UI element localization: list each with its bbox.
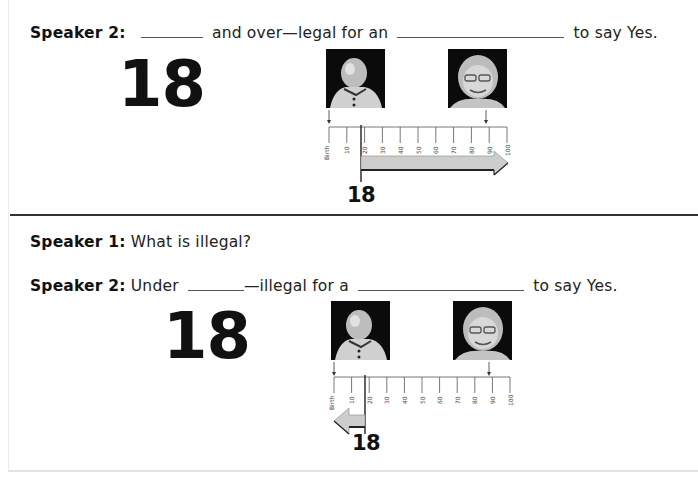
tick-label: 10 xyxy=(343,146,350,154)
tick-label: 50 xyxy=(415,146,422,154)
fill-in-blank-2[interactable] xyxy=(358,289,524,291)
age-timeline-1: Birth 10 20 30 40 50 60 70 80 90 100 xyxy=(322,108,522,188)
tick-label: 70 xyxy=(450,146,457,154)
sentence-fragment: to say Yes. xyxy=(533,277,617,295)
tick-label: 70 xyxy=(454,396,461,404)
age-18-marker-label: 18 xyxy=(347,183,375,207)
tick-label: 100 xyxy=(507,395,514,406)
tick-label: 90 xyxy=(489,396,496,404)
tick-label: 20 xyxy=(361,146,368,154)
tick-labels: Birth 10 20 30 40 50 60 70 80 90 100 xyxy=(322,144,522,162)
tick-label: 100 xyxy=(504,145,511,156)
fill-in-blank-1[interactable] xyxy=(188,289,244,291)
speaker-label: Speaker 1: xyxy=(30,233,126,251)
elderly-image xyxy=(453,301,512,360)
tick-labels: Birth 10 20 30 40 50 60 70 80 90 100 xyxy=(327,394,527,412)
tick-label: 10 xyxy=(348,396,355,404)
page-edge-left xyxy=(8,0,9,470)
tick-label: 40 xyxy=(401,396,408,404)
speaker-1-question: Speaker 1: What is illegal? xyxy=(30,233,251,251)
tick-label: 80 xyxy=(468,146,475,154)
age-18-large: 18 xyxy=(118,52,205,116)
baby-photo xyxy=(331,301,390,360)
age-18-large: 18 xyxy=(163,304,250,368)
fill-in-blank-2[interactable] xyxy=(397,36,564,38)
tick-label: 60 xyxy=(436,396,443,404)
tick-label: 80 xyxy=(471,396,478,404)
tick-label: 90 xyxy=(486,146,493,154)
tick-label: Birth xyxy=(323,146,330,160)
fill-in-blank-1[interactable] xyxy=(141,36,203,38)
speaker-label: Speaker 2: xyxy=(30,277,126,295)
speaker-label: Speaker 2: xyxy=(30,24,126,42)
section-1-sentence: Speaker 2: and over—legal for an to say … xyxy=(30,24,658,42)
elderly-image xyxy=(448,49,507,108)
tick-label: 30 xyxy=(383,396,390,404)
tick-label: 60 xyxy=(432,146,439,154)
baby-image xyxy=(331,301,390,360)
tick-label: 20 xyxy=(366,396,373,404)
sentence-fragment: and over—legal for an xyxy=(212,24,388,42)
tick-label: Birth xyxy=(328,396,335,410)
tick-label: 30 xyxy=(379,146,386,154)
baby-image xyxy=(326,49,385,108)
tick-label: 50 xyxy=(419,396,426,404)
sentence-fragment: —illegal for a xyxy=(244,277,349,295)
sentence-fragment: to say Yes. xyxy=(574,24,658,42)
elderly-woman-photo xyxy=(453,301,512,360)
baby-photo xyxy=(326,49,385,108)
section-2-sentence: Speaker 2: Under —illegal for a to say Y… xyxy=(30,277,618,295)
question-text: What is illegal? xyxy=(131,233,252,251)
age-timeline-2: Birth 10 20 30 40 50 60 70 80 90 100 xyxy=(327,360,527,440)
section-divider xyxy=(10,214,698,216)
age-18-marker-label: 18 xyxy=(352,431,380,455)
sentence-fragment: Under xyxy=(131,277,179,295)
tick-label: 40 xyxy=(397,146,404,154)
page-edge-bottom xyxy=(8,470,698,472)
elderly-woman-photo xyxy=(448,49,507,108)
